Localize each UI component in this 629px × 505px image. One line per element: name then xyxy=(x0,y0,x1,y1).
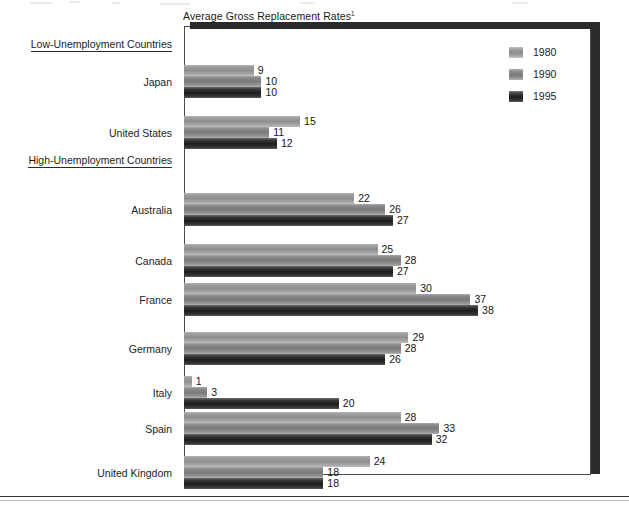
footer-rule xyxy=(0,496,629,497)
group-header-low-unemployment: Low-Unemployment Countries xyxy=(31,38,172,52)
category-label-canada: Canada xyxy=(135,255,172,267)
bar-united-kingdom-1995 xyxy=(184,478,323,489)
chart-title-footnote-marker: 1 xyxy=(351,10,355,17)
bar-spain-1990 xyxy=(184,423,439,434)
legend-row-1980: 1980 xyxy=(509,44,585,66)
bar-value-australia-1980: 22 xyxy=(354,193,370,204)
bar-canada-1990 xyxy=(184,255,401,266)
bar-germany-1990 xyxy=(184,343,401,354)
group-header-high-unemployment: High-Unemployment Countries xyxy=(28,154,172,168)
bar-value-united-states-1980: 15 xyxy=(300,116,316,127)
bar-value-australia-1995: 27 xyxy=(393,215,409,226)
legend-row-1990: 1990 xyxy=(509,66,585,88)
bar-united-kingdom-1980 xyxy=(184,456,370,467)
bar-united-kingdom-1990 xyxy=(184,467,323,478)
legend-row-1995: 1995 xyxy=(509,88,585,110)
chart-title: Average Gross Replacement Rates1 xyxy=(183,10,355,22)
bar-value-germany-1995: 26 xyxy=(385,354,401,365)
legend-swatch-1995-icon xyxy=(509,91,523,102)
bar-france-1995 xyxy=(184,305,478,316)
bar-france-1980 xyxy=(184,283,416,294)
bar-italy-1980 xyxy=(184,376,192,387)
footer-rule-secondary xyxy=(0,500,629,501)
bar-spain-1995 xyxy=(184,434,432,445)
bar-value-united-kingdom-1995: 18 xyxy=(323,478,339,489)
legend-swatch-1990-icon xyxy=(509,69,523,80)
bar-value-italy-1995: 20 xyxy=(339,398,355,409)
category-label-united-kingdom: United Kingdom xyxy=(97,467,172,479)
category-label-united-states: United States xyxy=(109,127,172,139)
bar-value-japan-1995: 10 xyxy=(261,87,277,98)
bar-japan-1990 xyxy=(184,76,261,87)
category-label-spain: Spain xyxy=(145,423,172,435)
scan-artifacts xyxy=(0,0,629,10)
bar-italy-1990 xyxy=(184,387,207,398)
bar-value-spain-1995: 32 xyxy=(432,434,448,445)
legend-label-1980: 1980 xyxy=(533,44,556,61)
bar-france-1990 xyxy=(184,294,470,305)
bar-united-states-1990 xyxy=(184,127,269,138)
bar-value-spain-1980: 28 xyxy=(401,412,417,423)
category-label-column: Low-Unemployment Countries Japan United … xyxy=(0,26,178,475)
chart-legend: 1980 1990 1995 xyxy=(509,44,585,110)
bar-japan-1980 xyxy=(184,65,254,76)
legend-label-1995: 1995 xyxy=(533,88,556,105)
bar-germany-1980 xyxy=(184,332,408,343)
category-label-italy: Italy xyxy=(153,387,172,399)
chart-title-text: Average Gross Replacement Rates xyxy=(183,10,351,22)
bar-canada-1980 xyxy=(184,244,378,255)
bar-value-japan-1980: 9 xyxy=(254,65,264,76)
bar-germany-1995 xyxy=(184,354,385,365)
bar-japan-1995 xyxy=(184,87,261,98)
bar-australia-1995 xyxy=(184,215,393,226)
legend-swatch-1980-icon xyxy=(509,47,523,58)
category-label-japan: Japan xyxy=(143,76,172,88)
bar-value-germany-1990: 28 xyxy=(401,343,417,354)
bar-canada-1995 xyxy=(184,266,393,277)
bar-australia-1990 xyxy=(184,204,385,215)
category-label-germany: Germany xyxy=(129,343,172,355)
bar-value-france-1995: 38 xyxy=(478,305,494,316)
bar-value-italy-1990: 3 xyxy=(207,387,217,398)
bar-value-canada-1995: 27 xyxy=(393,266,409,277)
bar-value-canada-1980: 25 xyxy=(378,244,394,255)
bar-spain-1980 xyxy=(184,412,401,423)
legend-label-1990: 1990 xyxy=(533,66,556,83)
bar-australia-1980 xyxy=(184,193,354,204)
category-label-france: France xyxy=(139,294,172,306)
bar-united-states-1995 xyxy=(184,138,277,149)
bar-value-united-kingdom-1980: 24 xyxy=(370,456,386,467)
category-label-australia: Australia xyxy=(131,204,172,216)
bar-value-italy-1980: 1 xyxy=(192,376,202,387)
bar-italy-1995 xyxy=(184,398,339,409)
bar-value-united-states-1995: 12 xyxy=(277,138,293,149)
bar-value-france-1980: 30 xyxy=(416,283,432,294)
